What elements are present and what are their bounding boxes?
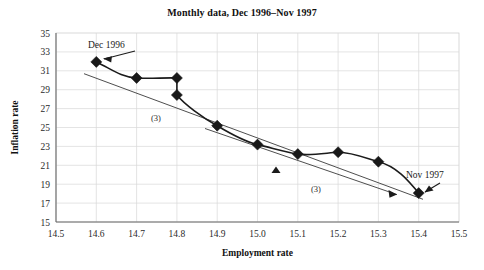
y-tick: 19	[41, 180, 51, 190]
y-axis-title: Inflation rate	[10, 100, 20, 154]
x-tick: 14.8	[169, 229, 186, 239]
trend-line-lower	[205, 129, 397, 198]
trend-line-upper	[84, 74, 423, 200]
x-tick: 14.7	[128, 229, 145, 239]
y-axis-tick-labels: 35 33 31 29 27 25 23 21 19 17 15	[41, 29, 51, 228]
data-point	[252, 139, 263, 150]
annotation-trend-label-upper: (3)	[151, 113, 161, 123]
x-axis-title: Employment rate	[222, 248, 293, 258]
annotation-label: Dec 1996	[88, 40, 125, 50]
y-tick: 23	[41, 142, 51, 152]
annotation-nov-1997: Nov 1997	[406, 170, 444, 193]
y-tick: 33	[41, 47, 51, 57]
x-axis-tick-labels: 14.5 14.6 14.7 14.8 14.9 15.0 15.1 15.2 …	[48, 229, 468, 239]
annotation-trend-label-lower: (3)	[311, 184, 321, 194]
data-point	[333, 147, 344, 158]
y-tick: 35	[41, 29, 51, 39]
phillips-curve-chart: 35 33 31 29 27 25 23 21 19 17 15 14.5 14…	[0, 0, 484, 270]
x-tick: 15.0	[249, 229, 266, 239]
annotation-label: Nov 1997	[406, 170, 444, 180]
y-tick: 15	[41, 218, 51, 228]
trend-marker-triangle	[272, 167, 281, 174]
y-tick: 25	[41, 123, 51, 133]
data-point	[131, 73, 142, 84]
x-tick: 15.2	[330, 229, 347, 239]
x-tick: 14.5	[48, 229, 65, 239]
x-tick: 14.9	[209, 229, 226, 239]
x-tick: 15.3	[370, 229, 387, 239]
data-point	[292, 149, 303, 160]
data-point	[171, 73, 182, 84]
y-tick: 29	[41, 85, 51, 95]
x-tick: 15.4	[410, 229, 427, 239]
y-tick: 17	[41, 199, 51, 209]
chart-screenshot: Monthly data, Dec 1996–Nov 1997	[0, 0, 484, 270]
x-tick: 14.6	[88, 229, 105, 239]
x-tick: 15.1	[289, 229, 306, 239]
data-point	[91, 56, 102, 67]
y-tick: 27	[41, 104, 51, 114]
y-tick: 31	[41, 66, 51, 76]
x-tick: 15.5	[451, 229, 468, 239]
y-tick: 21	[41, 161, 51, 171]
